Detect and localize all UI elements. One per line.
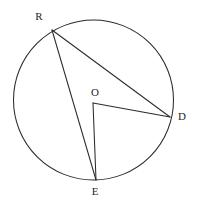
point-label-E: E xyxy=(92,185,99,197)
geometry-canvas: R O D E xyxy=(0,0,199,205)
chord-R-D xyxy=(52,30,170,117)
radius-O-E xyxy=(93,103,96,180)
point-label-O: O xyxy=(91,86,99,98)
point-label-D: D xyxy=(178,110,186,122)
main-circle xyxy=(14,20,174,180)
radius-O-D xyxy=(93,103,170,117)
point-label-R: R xyxy=(35,10,43,22)
geometry-diagram: R O D E xyxy=(0,0,199,205)
chord-R-E xyxy=(52,30,96,180)
